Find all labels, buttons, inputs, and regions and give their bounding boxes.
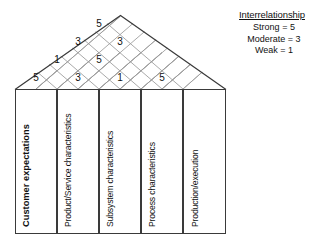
- roof-cell-r4c1: 5: [33, 72, 39, 83]
- label-holder: Subsystem characteristics: [100, 90, 140, 233]
- label-holder: Customer expectations: [16, 90, 56, 233]
- roof-cell-r3c1: 1: [54, 54, 60, 65]
- legend-item-moderate: Moderate = 3: [232, 34, 316, 46]
- roof-cell-r2c1: 3: [75, 36, 81, 47]
- roof-cell-r2c2: 3: [117, 36, 123, 47]
- legend-title: Interrelationship: [228, 9, 316, 20]
- interrelationship-legend: Interrelationship Strong = 5 Moderate = …: [228, 9, 316, 57]
- legend-items: Strong = 5 Moderate = 3 Weak = 1: [228, 22, 316, 57]
- legend-item-weak: Weak = 1: [232, 45, 316, 57]
- column-subsystem-characteristics[interactable]: Subsystem characteristics: [99, 89, 141, 234]
- label-holder: Process characteristics: [142, 90, 182, 233]
- roof-cell-r4c2: 3: [75, 72, 81, 83]
- roof-cell-r3c2: 5: [96, 54, 102, 65]
- legend-item-strong: Strong = 5: [232, 22, 316, 34]
- column-customer-expectations[interactable]: Customer expectations: [15, 89, 57, 234]
- roof-cell-r4c4: 5: [159, 72, 165, 83]
- column-product-service-characteristics[interactable]: Product/Service characteristics: [57, 89, 99, 234]
- label-holder: Production/execution: [184, 90, 225, 233]
- roof-cell-r4c3: 1: [117, 72, 123, 83]
- column-label-subsystem-characteristics: Subsystem characteristics: [105, 131, 115, 227]
- column-production-execution[interactable]: Production/execution: [183, 89, 226, 234]
- column-label-product-service-characteristics: Product/Service characteristics: [63, 114, 73, 227]
- column-process-characteristics[interactable]: Process characteristics: [141, 89, 183, 234]
- column-label-customer-expectations: Customer expectations: [21, 124, 31, 227]
- house-of-quality-diagram: 5 3 1 5 1 5 3 3 5 Customer expectations …: [0, 0, 318, 251]
- label-holder: Product/Service characteristics: [58, 90, 98, 233]
- column-label-production-execution: Production/execution: [190, 150, 200, 227]
- roof-cell-r1c1: 5: [96, 18, 102, 29]
- column-label-process-characteristics: Process characteristics: [147, 142, 157, 227]
